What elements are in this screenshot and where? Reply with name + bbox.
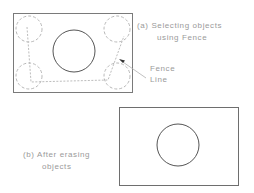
- fence-line: [27, 27, 124, 82]
- dashed-circle-top-left: [16, 16, 42, 42]
- panel-b-rectangle: [120, 108, 239, 186]
- dashed-circle-bottom-right: [104, 63, 130, 89]
- panel-a-center-circle: [53, 30, 95, 72]
- panel-a-caption-line1: (a) Selecting objects: [137, 21, 222, 30]
- dashed-circle-bottom-left: [16, 63, 42, 89]
- panel-b-caption-line1: (b) After erasing: [23, 150, 90, 159]
- panel-a-caption-line2: using Fence: [157, 33, 207, 42]
- panel-b-drawing: [120, 108, 239, 186]
- fence-callout-label-line1: Fence: [150, 64, 175, 73]
- dashed-circle-top-right: [104, 16, 130, 42]
- fence-callout-label-line2: Line: [150, 75, 168, 84]
- panel-a-drawing: [14, 14, 147, 93]
- panel-b-caption-line2: objects: [42, 162, 72, 171]
- panel-b-center-circle: [157, 124, 199, 166]
